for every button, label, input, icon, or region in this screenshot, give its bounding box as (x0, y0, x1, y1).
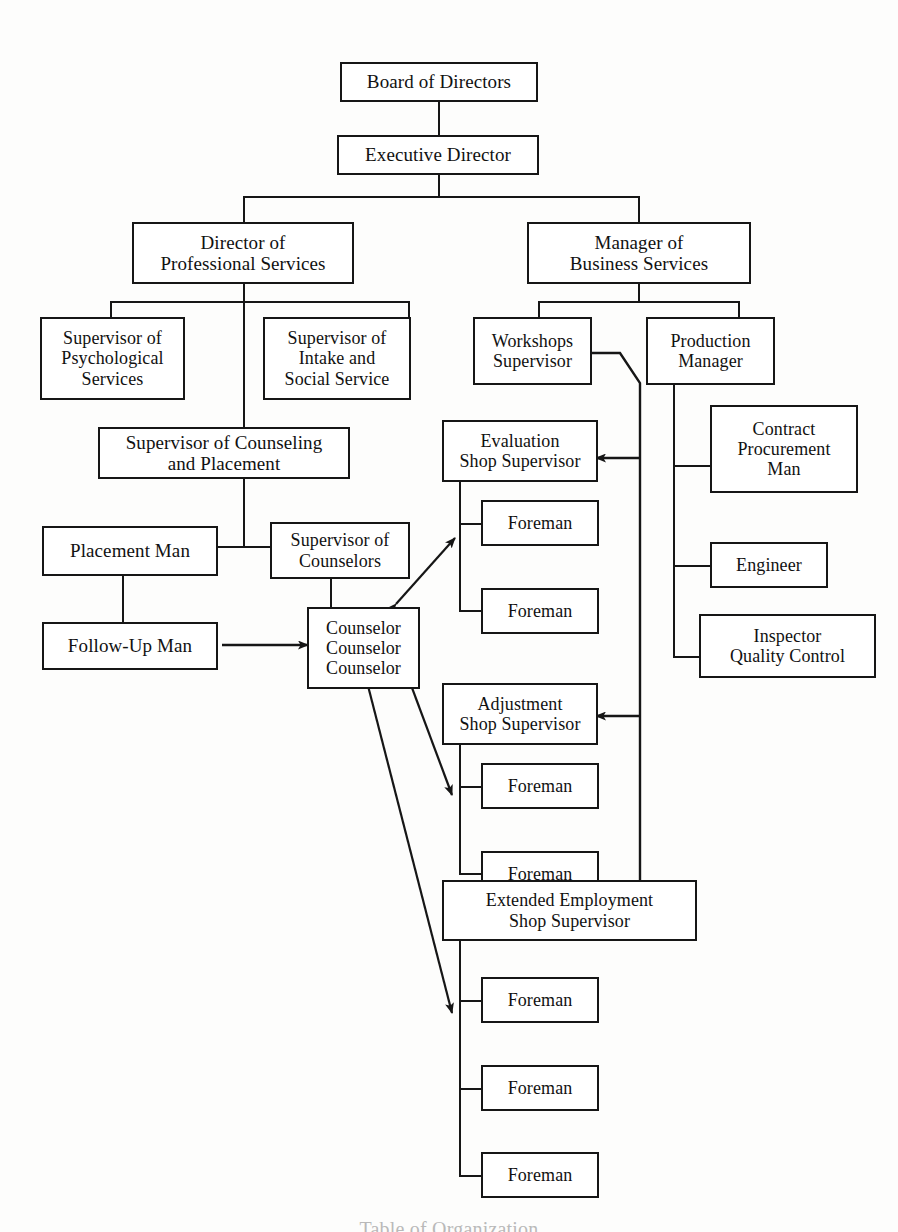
node-manager-of-business-services[interactable]: Manager of Business Services (527, 222, 751, 284)
node-label: Adjustment Shop Supervisor (459, 694, 580, 734)
node-evaluation-foreman-2[interactable]: Foreman (481, 588, 599, 634)
connector-board-to-exec (438, 100, 440, 135)
node-label: Board of Directors (367, 71, 511, 92)
node-label: Follow-Up Man (68, 635, 192, 656)
node-supervisor-of-psychological-services[interactable]: Supervisor of Psychological Services (40, 317, 185, 400)
node-label: Contract Procurement Man (737, 419, 830, 479)
connector-dirprof-down (243, 283, 245, 301)
connector-prodmgr-engineer (673, 565, 711, 567)
node-workshops-supervisor[interactable]: Workshops Supervisor (473, 317, 592, 385)
node-executive-director[interactable]: Executive Director (337, 135, 539, 175)
node-label: Foreman (508, 990, 573, 1010)
connector-placement-to-followup (122, 576, 124, 622)
node-supervisor-of-counselors[interactable]: Supervisor of Counselors (270, 522, 410, 579)
node-evaluation-shop-supervisor[interactable]: Evaluation Shop Supervisor (442, 420, 598, 482)
connector-prodmgr-spine (673, 383, 675, 658)
node-label: Foreman (508, 776, 573, 796)
connector-mgrbus-bus (538, 301, 738, 303)
connector-adjshop-fore1 (459, 786, 482, 788)
connector-prodmgr-contract (673, 465, 711, 467)
connector-extshop-spine (459, 941, 461, 1176)
connector-to-workshops (538, 301, 540, 317)
node-director-of-professional-services[interactable]: Director of Professional Services (132, 222, 354, 284)
node-extended-employment-shop-supervisor[interactable]: Extended Employment Shop Supervisor (442, 880, 697, 941)
connector-counsplace-bus (216, 546, 272, 548)
node-label: Placement Man (70, 540, 190, 561)
figure-caption: Table of Organization (0, 1218, 898, 1232)
connector-to-dirprof (243, 196, 245, 222)
node-adjustment-foreman-1[interactable]: Foreman (481, 763, 599, 809)
connector-adjshop-spine (459, 745, 461, 875)
connector-to-suppsych (110, 301, 112, 317)
node-extended-foreman-3[interactable]: Foreman (481, 1152, 599, 1198)
node-label: Evaluation Shop Supervisor (459, 431, 580, 471)
node-contract-procurement-man[interactable]: Contract Procurement Man (710, 405, 858, 493)
connector-to-prodmgr (738, 301, 740, 317)
node-adjustment-shop-supervisor[interactable]: Adjustment Shop Supervisor (442, 683, 598, 745)
connector-to-mgrbus (638, 196, 640, 222)
node-label: Counselor Counselor Counselor (326, 618, 401, 678)
node-label: Supervisor of Counselors (291, 530, 390, 570)
node-label: Production Manager (671, 331, 751, 371)
node-label: Supervisor of Intake and Social Service (285, 328, 390, 388)
connector-evalshop-spine (459, 482, 461, 612)
node-extended-foreman-2[interactable]: Foreman (481, 1065, 599, 1111)
node-label: Director of Professional Services (160, 232, 325, 275)
node-label: Executive Director (365, 144, 511, 165)
node-label: Foreman (508, 1165, 573, 1185)
connector-adjshop-fore2 (459, 873, 482, 875)
connector-counsplace-down (243, 478, 245, 546)
node-label: Foreman (508, 513, 573, 533)
connector-exec-bus (243, 196, 640, 198)
node-follow-up-man[interactable]: Follow-Up Man (42, 622, 218, 670)
node-label: Foreman (508, 1078, 573, 1098)
node-board-of-directors[interactable]: Board of Directors (340, 62, 538, 102)
node-label: Extended Employment Shop Supervisor (486, 890, 653, 930)
connector-extshop-fore2 (459, 1088, 482, 1090)
node-supervisor-of-counseling-and-placement[interactable]: Supervisor of Counseling and Placement (98, 427, 350, 479)
connector-extshop-fore3 (459, 1175, 482, 1177)
connector-dirprof-bus (110, 301, 410, 303)
connector-exec-down (438, 174, 440, 196)
node-evaluation-foreman-1[interactable]: Foreman (481, 500, 599, 546)
node-extended-foreman-1[interactable]: Foreman (481, 977, 599, 1023)
connector-prodmgr-inspector (673, 656, 700, 658)
node-production-manager[interactable]: Production Manager (646, 317, 775, 385)
connector-supcouns-to-counselors (330, 578, 332, 607)
connector-to-supintake (408, 301, 410, 317)
double-arrow-counselors-extshop (366, 678, 452, 1013)
connector-evalshop-fore1 (459, 523, 482, 525)
node-label: Foreman (508, 601, 573, 621)
node-placement-man[interactable]: Placement Man (42, 526, 218, 576)
connector-extshop-fore1 (459, 1000, 482, 1002)
node-label: Inspector Quality Control (730, 626, 845, 666)
node-label: Engineer (736, 555, 802, 575)
org-chart-canvas: Board of Directors Executive Director Di… (0, 0, 898, 1232)
connector-evalshop-fore2 (459, 610, 482, 612)
node-supervisor-of-intake-and-social-service[interactable]: Supervisor of Intake and Social Service (263, 317, 411, 400)
node-counselors[interactable]: Counselor Counselor Counselor (307, 607, 420, 689)
connector-dirprof-to-counsplace (243, 301, 245, 427)
node-label: Workshops Supervisor (492, 331, 573, 371)
node-inspector-quality-control[interactable]: Inspector Quality Control (699, 614, 876, 678)
connector-mgrbus-down (638, 283, 640, 301)
workshop-trunk (592, 353, 660, 930)
node-label: Manager of Business Services (570, 232, 708, 275)
node-label: Supervisor of Counseling and Placement (126, 432, 323, 475)
node-label: Supervisor of Psychological Services (61, 328, 163, 388)
node-engineer[interactable]: Engineer (710, 542, 828, 588)
